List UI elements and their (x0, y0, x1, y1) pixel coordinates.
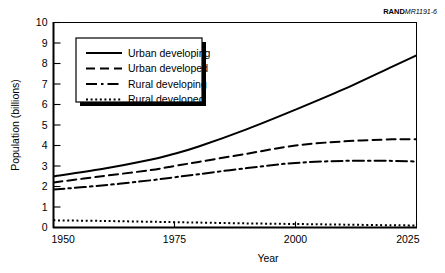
y-tick-label: 3 (42, 160, 48, 172)
x-tick-label: 1950 (52, 233, 76, 245)
y-tick-label: 8 (42, 57, 48, 69)
legend-item-label: Urban developing (128, 47, 210, 59)
x-tick-label: 2000 (284, 233, 308, 245)
y-axis-ticks: 012345678910 (36, 16, 61, 233)
x-tick-label: 1975 (163, 233, 187, 245)
x-axis-ticks: 1950197520002025 (52, 222, 420, 245)
y-tick-label: 1 (42, 201, 48, 213)
legend-item-label: Rural developed (128, 93, 205, 105)
x-tick-label: 2025 (396, 233, 420, 245)
figure-container: RANDMR1191-6 012345678910 19501975200020… (0, 0, 445, 273)
series-line (54, 220, 417, 225)
y-tick-label: 9 (42, 37, 48, 49)
legend-item-label: Rural developing (128, 78, 207, 90)
x-axis-title: Year (257, 252, 279, 264)
y-tick-label: 10 (36, 16, 48, 28)
y-tick-label: 2 (42, 180, 48, 192)
y-tick-label: 4 (42, 139, 48, 151)
y-axis-title: Population (billions) (9, 79, 21, 171)
y-tick-label: 6 (42, 98, 48, 110)
legend-item-label: Urban developed (128, 62, 208, 74)
legend: Urban developingUrban developedRural dev… (76, 38, 210, 106)
y-tick-label: 5 (42, 119, 48, 131)
line-chart: 012345678910 1950197520002025 Year Popul… (0, 0, 445, 273)
y-tick-label: 7 (42, 78, 48, 90)
y-tick-label: 0 (42, 221, 48, 233)
series-line (54, 161, 417, 190)
